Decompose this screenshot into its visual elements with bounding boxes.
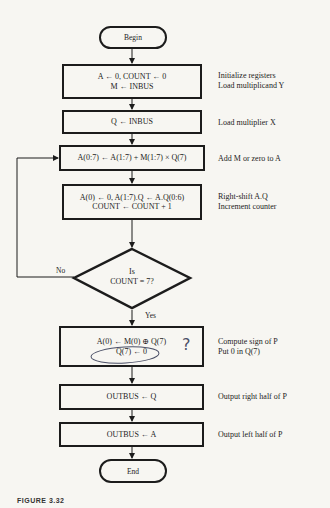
note-initialize: Initialize registers Load multiplicand Y <box>218 71 284 90</box>
step-line: A(0) ← M(0) ⊕ Q(7) <box>97 337 166 347</box>
step-line: A(0:7) ← A(1:7) + M(1:7) × Q(7) <box>77 153 186 163</box>
note-line: Output left half of P <box>218 430 282 440</box>
note-load-q: Load multiplier X <box>218 118 276 128</box>
step-line: M ← INBUS <box>110 82 153 92</box>
note-line: Put 0 in Q(7) <box>218 347 278 357</box>
yes-label: Yes <box>145 311 156 320</box>
step-line: COUNT ← COUNT + 1 <box>92 202 171 212</box>
step-load-q: Q ← INBUS <box>62 110 202 134</box>
decision-text: Is COUNT = 7? <box>102 267 162 286</box>
step-line: A(0) ← 0, A(1:7).Q ← A.Q(0:6) <box>80 193 184 203</box>
begin-label: Begin <box>124 33 142 42</box>
note-output-a: Output left half of P <box>218 430 282 440</box>
note-line: Load multiplicand Y <box>218 81 284 91</box>
note-add: Add M or zero to A <box>218 154 281 164</box>
handwritten-question-mark: ? <box>182 335 191 354</box>
step-line: Q ← INBUS <box>111 117 153 127</box>
note-output-q: Output right half of P <box>218 392 287 402</box>
end-terminal: End <box>99 459 167 483</box>
begin-terminal: Begin <box>99 26 167 49</box>
end-label: End <box>127 467 139 476</box>
figure-caption: FIGURE 3.32 <box>17 497 65 504</box>
step-line: Q(7) ← 0 <box>116 347 147 357</box>
no-label: No <box>56 266 65 275</box>
decision-line: Is <box>102 267 162 277</box>
note-line: Increment counter <box>218 202 276 212</box>
note-line: Initialize registers <box>218 71 284 81</box>
step-output-a: OUTBUS ← A <box>59 422 204 447</box>
step-shift: A(0) ← 0, A(1:7).Q ← A.Q(0:6) COUNT ← CO… <box>62 184 202 220</box>
step-line: OUTBUS ← Q <box>107 392 157 402</box>
step-line: A ← 0, COUNT ← 0 <box>98 72 167 82</box>
note-line: Right-shift A.Q <box>218 192 276 202</box>
note-line: Add M or zero to A <box>218 154 281 164</box>
note-line: Output right half of P <box>218 392 287 402</box>
step-output-q: OUTBUS ← Q <box>59 384 204 410</box>
decision-line: COUNT = 7? <box>102 277 162 287</box>
step-line: OUTBUS ← A <box>107 430 156 440</box>
note-line: Load multiplier X <box>218 118 276 128</box>
note-sign: Compute sign of P Put 0 in Q(7) <box>218 337 278 356</box>
step-add: A(0:7) ← A(1:7) + M(1:7) × Q(7) <box>59 145 205 171</box>
note-line: Compute sign of P <box>218 337 278 347</box>
note-shift: Right-shift A.Q Increment counter <box>218 192 276 211</box>
step-initialize: A ← 0, COUNT ← 0 M ← INBUS <box>62 64 202 99</box>
